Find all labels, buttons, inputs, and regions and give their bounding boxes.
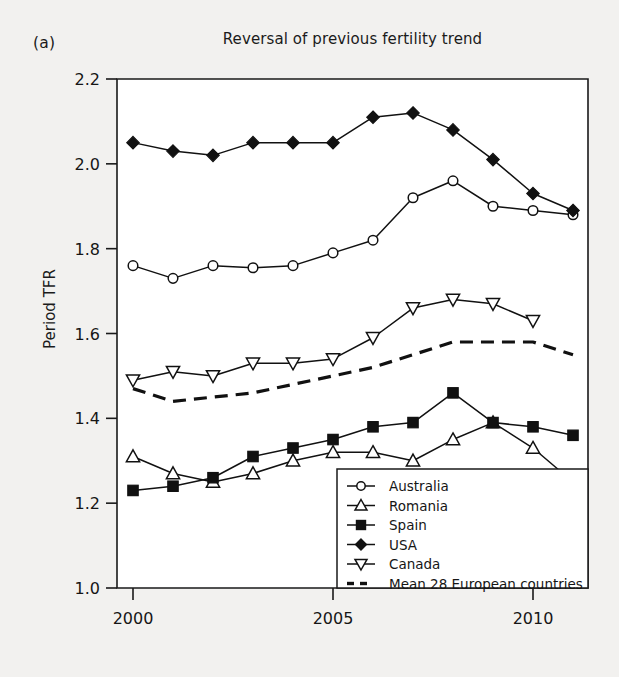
marker-filled-square	[448, 388, 458, 398]
legend-box	[337, 469, 588, 588]
marker-filled-square	[328, 434, 338, 444]
y-tick-label: 2.0	[75, 155, 100, 174]
legend-label: USA	[389, 537, 418, 553]
x-tick-label: 2005	[313, 609, 354, 628]
y-tick-label: 1.8	[75, 240, 100, 259]
marker-open-circle	[128, 261, 138, 271]
x-tick-label: 2000	[113, 609, 154, 628]
marker-filled-square	[248, 451, 258, 461]
marker-open-circle	[208, 261, 218, 271]
x-axis-ticks: 200020052010	[113, 588, 554, 628]
y-tick-label: 1.4	[75, 409, 100, 428]
marker-filled-square	[356, 520, 365, 529]
marker-open-circle	[528, 206, 538, 216]
y-tick-label: 1.6	[75, 325, 100, 344]
marker-open-circle	[448, 176, 458, 186]
marker-open-circle	[328, 248, 338, 258]
legend-label: Spain	[389, 517, 427, 533]
figure-panel-a: (a) Reversal of previous fertility trend…	[0, 0, 619, 677]
marker-open-circle	[168, 274, 178, 284]
marker-open-circle	[488, 201, 498, 211]
marker-open-circle	[368, 235, 378, 245]
marker-filled-square	[168, 481, 178, 491]
marker-filled-square	[288, 443, 298, 453]
line-chart: 1.01.21.41.61.82.02.2 200020052010 Austr…	[0, 0, 619, 677]
marker-open-circle	[408, 193, 418, 203]
legend-label: Australia	[389, 478, 449, 494]
marker-open-circle	[288, 261, 298, 271]
marker-filled-square	[408, 417, 418, 427]
y-tick-label: 1.2	[75, 494, 100, 513]
legend-label: Canada	[389, 556, 440, 572]
marker-open-circle	[357, 482, 365, 490]
legend-label: Romania	[389, 498, 448, 514]
y-tick-label: 1.0	[75, 579, 100, 598]
marker-open-circle	[248, 263, 258, 273]
marker-filled-square	[568, 430, 578, 440]
marker-filled-square	[528, 422, 538, 432]
y-axis-ticks: 1.01.21.41.61.82.02.2	[75, 70, 117, 598]
legend-label: Mean 28 European countries	[389, 576, 583, 592]
marker-filled-square	[208, 473, 218, 483]
marker-filled-square	[128, 485, 138, 495]
marker-filled-square	[488, 417, 498, 427]
chart-legend: AustraliaRomaniaSpainUSACanadaMean 28 Eu…	[337, 469, 588, 592]
x-tick-label: 2010	[513, 609, 554, 628]
marker-filled-square	[368, 422, 378, 432]
y-tick-label: 2.2	[75, 70, 100, 89]
